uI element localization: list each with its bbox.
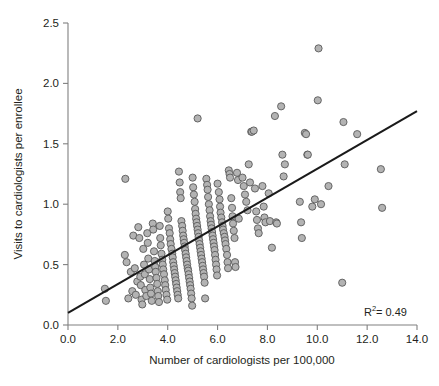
- data-point: [122, 175, 129, 182]
- data-point: [298, 234, 305, 241]
- data-point: [189, 174, 196, 181]
- data-point: [191, 198, 198, 205]
- chart-canvas: 0.02.04.06.08.010.012.014.0 0.00.51.01.5…: [0, 0, 439, 386]
- data-point: [251, 185, 258, 192]
- data-point: [354, 131, 361, 138]
- data-point: [228, 195, 235, 202]
- data-point: [309, 203, 316, 210]
- data-point: [250, 127, 257, 134]
- r-squared-annotation: R 2 = 0.49: [364, 304, 407, 318]
- y-tick-labels: 0.00.51.01.52.02.5: [43, 17, 59, 331]
- x-tick-label-2: 4.0: [160, 333, 176, 345]
- data-point: [157, 234, 164, 241]
- y-tick-label-4: 2.0: [43, 77, 59, 89]
- data-point: [260, 203, 267, 210]
- data-point: [190, 191, 197, 198]
- r-squared-label: R: [364, 306, 372, 318]
- data-point: [215, 189, 222, 196]
- data-point: [379, 204, 386, 211]
- data-point: [188, 295, 195, 302]
- data-point: [175, 295, 182, 302]
- y-tick-label-2: 1.0: [43, 198, 59, 210]
- data-point: [259, 182, 266, 189]
- data-point: [317, 201, 324, 208]
- data-point: [146, 275, 153, 282]
- data-point: [253, 208, 260, 215]
- x-tick-label-6: 12.0: [356, 333, 378, 345]
- data-point: [131, 265, 138, 272]
- data-point: [231, 234, 238, 241]
- x-tick-label-0: 0.0: [60, 333, 76, 345]
- data-point: [228, 204, 235, 211]
- data-point: [314, 97, 321, 104]
- x-tick-labels: 0.02.04.06.08.010.012.014.0: [60, 333, 428, 345]
- y-tick-label-1: 0.5: [43, 259, 59, 271]
- data-point: [232, 263, 239, 270]
- data-point: [341, 161, 348, 168]
- data-point: [164, 296, 171, 303]
- data-point: [136, 234, 143, 241]
- data-point: [148, 297, 155, 304]
- x-tick-label-4: 8.0: [259, 333, 275, 345]
- data-point: [150, 248, 157, 255]
- data-point: [224, 265, 231, 272]
- y-tick-label-3: 1.5: [43, 138, 59, 150]
- scatter-plot-figure: 0.02.04.06.08.010.012.014.0 0.00.51.01.5…: [0, 0, 439, 386]
- data-point: [216, 196, 223, 203]
- data-point: [125, 295, 132, 302]
- data-point: [245, 161, 252, 168]
- x-tick-label-7: 14.0: [406, 333, 428, 345]
- data-point: [239, 174, 246, 181]
- x-axis-title: Number of cardiologists per 100,000: [149, 354, 334, 366]
- data-point: [230, 227, 237, 234]
- data-point: [226, 174, 233, 181]
- data-point: [190, 184, 197, 191]
- data-point: [268, 244, 275, 251]
- data-point: [253, 216, 260, 223]
- data-point: [189, 302, 196, 309]
- data-point: [280, 173, 287, 180]
- data-point: [223, 251, 230, 258]
- data-point: [243, 198, 250, 205]
- data-point: [311, 196, 318, 203]
- data-point: [155, 298, 162, 305]
- data-point: [194, 115, 201, 122]
- x-tick-label-3: 6.0: [210, 333, 226, 345]
- data-point: [213, 272, 220, 279]
- data-point: [340, 118, 347, 125]
- data-point: [241, 191, 248, 198]
- data-point: [202, 295, 209, 302]
- r-squared-value: = 0.49: [376, 306, 407, 318]
- data-point: [135, 224, 142, 231]
- data-point: [177, 195, 184, 202]
- data-point: [278, 103, 285, 110]
- data-point: [377, 166, 384, 173]
- data-point: [273, 220, 280, 227]
- y-axis-title: Visits to cardiologists per enrollee: [12, 88, 24, 259]
- data-point: [302, 131, 309, 138]
- data-point: [175, 168, 182, 175]
- data-point: [325, 182, 332, 189]
- data-point: [255, 230, 262, 237]
- data-point: [176, 179, 183, 186]
- data-point: [164, 208, 171, 215]
- data-point: [139, 301, 146, 308]
- data-point: [204, 186, 211, 193]
- data-point: [147, 290, 154, 297]
- data-point: [201, 279, 208, 286]
- data-point: [121, 251, 128, 258]
- data-point: [154, 280, 161, 287]
- data-point: [339, 279, 346, 286]
- data-point: [102, 297, 109, 304]
- data-point: [281, 161, 288, 168]
- data-point: [123, 259, 130, 266]
- data-point: [156, 222, 163, 229]
- data-point: [315, 45, 322, 52]
- y-tick-label-5: 2.5: [43, 17, 59, 29]
- data-point: [165, 215, 172, 222]
- data-point: [271, 112, 278, 119]
- data-point: [279, 151, 286, 158]
- data-point: [297, 219, 304, 226]
- data-point: [304, 151, 311, 158]
- regression-trendline: [68, 111, 417, 313]
